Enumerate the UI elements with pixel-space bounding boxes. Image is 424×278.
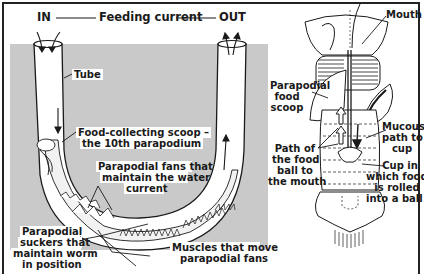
path-label-line4: the mouth [268, 176, 322, 187]
in-label: IN [37, 12, 51, 23]
cup-label-line4: into a ball [366, 193, 422, 204]
mucous-label-line1: Mucous [382, 121, 422, 132]
scoop-label-line1: Food-collecting scoop – [76, 127, 211, 138]
out-label: OUT [219, 12, 246, 23]
mucous-label-line3: cup [382, 143, 422, 154]
muscles-label-line2: parapodial fans [178, 253, 260, 264]
mucous-label-line2: path to [382, 132, 422, 143]
food-scoop-label-line2: food [270, 91, 304, 102]
fans-label-line3: current [124, 183, 164, 194]
suckers-label-line1: Parapodial [20, 226, 80, 237]
path-label-line1: Path of [272, 143, 318, 154]
mouth-label: Mouth [386, 9, 422, 20]
scoop-label-line2: the 10th parapodium [80, 138, 203, 149]
path-label-line2: the food [272, 154, 318, 165]
suckers-label-line3: maintain worm [11, 248, 81, 259]
fans-label-line2: maintain the water [100, 172, 188, 183]
food-scoop-label-line3: scoop [270, 102, 304, 113]
cup-label-line1: Cup in [378, 160, 422, 171]
suckers-label-line4: in position [20, 259, 76, 270]
cup-label-line3: is rolled [372, 182, 422, 193]
feeding-current-label: Feeding current [99, 12, 202, 23]
food-scoop-label-line1: Parapodial [270, 80, 314, 91]
cup-label-line2: which food [366, 171, 422, 182]
tube-label: Tube [72, 69, 103, 80]
fans-label-line1: Parapodial fans that [96, 161, 192, 172]
suckers-label-line2: suckers that [18, 237, 82, 248]
path-label-line3: ball to [272, 165, 318, 176]
worm-head-illustration [305, 15, 393, 248]
muscles-label-line1: Muscles that move [170, 242, 260, 253]
